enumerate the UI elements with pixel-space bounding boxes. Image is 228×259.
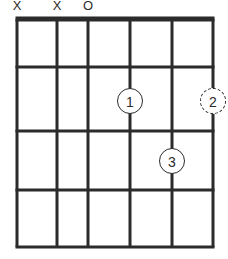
finger-dot-1: 1 — [117, 88, 143, 114]
open-string-icon-3: O — [80, 0, 96, 12]
finger-dot-3: 3 — [159, 148, 185, 174]
fret-lines — [16, 19, 215, 247]
string-lines — [17, 19, 213, 247]
muted-string-icon-2: X — [49, 0, 65, 12]
muted-string-icon-1: X — [9, 0, 25, 12]
finger-dot-label: 1 — [126, 95, 134, 109]
finger-dot-label: 2 — [209, 95, 217, 109]
chord-diagram: XXO 123 — [0, 0, 228, 259]
finger-dot-2: 2 — [200, 88, 226, 114]
finger-dot-label: 3 — [168, 155, 176, 169]
fretboard-grid — [0, 0, 228, 259]
